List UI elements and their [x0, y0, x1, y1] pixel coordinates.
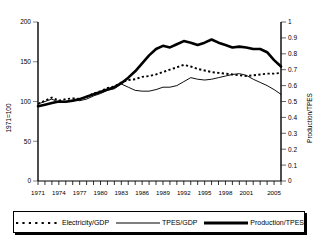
series-line-2 [38, 39, 281, 106]
legend-swatch-icon [202, 219, 250, 226]
legend-items: Electricity/GDPTPES/GDPProduction/TPES [14, 212, 304, 232]
chart-legend: Electricity/GDPTPES/GDPProduction/TPES [13, 211, 305, 233]
y-axis-right-tick-label: 0.1 [288, 162, 297, 169]
x-axis-tick-label: 1989 [156, 189, 170, 196]
x-axis-tick-label: 1971 [31, 189, 45, 196]
y-axis-left-tick-label: 50 [24, 138, 32, 145]
legend-swatch-icon [14, 219, 62, 226]
legend-label: Production/TPES [250, 219, 304, 226]
data-series-group [38, 39, 281, 106]
x-axis-tick-label: 1977 [73, 189, 87, 196]
x-axis-tick-label: 2005 [267, 189, 281, 196]
y-axis-right-tick-label: 0 [288, 177, 292, 184]
x-axis-tick-label: 1998 [219, 189, 233, 196]
legend-item-1[interactable]: TPES/GDP [114, 219, 197, 226]
legend-item-0[interactable]: Electricity/GDP [14, 219, 109, 226]
x-axis-tick-label: 1974 [52, 189, 66, 196]
y-axis-right-tick-label: 0.2 [288, 146, 297, 153]
x-axis-tick-label: 2001 [239, 189, 253, 196]
legend-label: TPES/GDP [162, 219, 197, 226]
legend-swatch-icon [114, 219, 162, 226]
y-axis-right-tick-label: 0.7 [288, 66, 297, 73]
y-axis-right: 00.10.20.30.40.50.60.70.80.91 [281, 18, 297, 184]
y-axis-right-tick-label: 0.8 [288, 50, 297, 57]
x-axis: 1971197419771980198319861989199219951998… [31, 181, 281, 196]
plot-region: 050100150200 00.10.20.30.40.50.60.70.80.… [0, 0, 320, 200]
y-axis-right-tick-label: 0.3 [288, 130, 297, 137]
y-axis-right-tick-label: 0.4 [288, 114, 297, 121]
line-chart-svg: 050100150200 00.10.20.30.40.50.60.70.80.… [0, 0, 320, 200]
y-axis-left-tick-label: 200 [20, 18, 31, 25]
y-axis-right-title: Production/TPES [306, 92, 313, 143]
y-axis-left-tick-label: 0 [27, 177, 31, 184]
series-line-0 [38, 65, 281, 104]
x-axis-tick-label: 1992 [177, 189, 191, 196]
y-axis-right-tick-label: 1 [288, 18, 292, 25]
y-axis-right-tick-label: 0.5 [288, 98, 297, 105]
y-axis-left-tick-label: 100 [20, 98, 31, 105]
x-axis-tick-label: 1995 [198, 189, 212, 196]
x-axis-tick-label: 1986 [135, 189, 149, 196]
x-axis-tick-label: 1980 [94, 189, 108, 196]
chart-figure: 050100150200 00.10.20.30.40.50.60.70.80.… [0, 0, 320, 243]
legend-label: Electricity/GDP [62, 219, 109, 226]
y-axis-right-tick-label: 0.6 [288, 82, 297, 89]
x-axis-tick-label: 1983 [114, 189, 128, 196]
y-axis-left-title: 1971=100 [5, 103, 12, 132]
y-axis-left: 050100150200 [20, 18, 38, 184]
legend-item-2[interactable]: Production/TPES [202, 219, 304, 226]
y-axis-left-tick-label: 150 [20, 58, 31, 65]
y-axis-right-tick-label: 0.9 [288, 34, 297, 41]
